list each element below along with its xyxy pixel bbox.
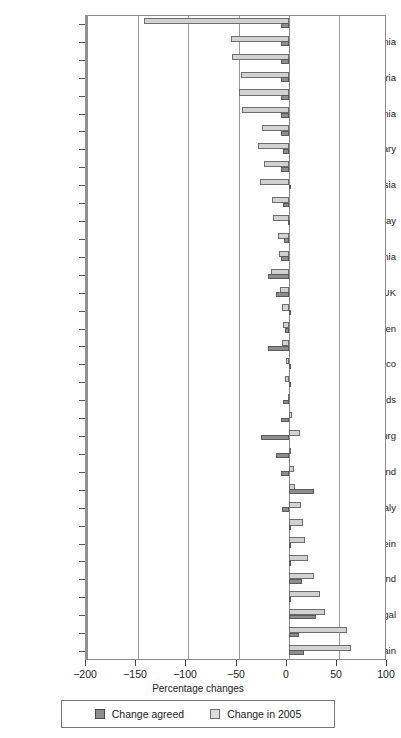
bar-agreed-france [289, 382, 291, 387]
bar-2005-liechtenstein [289, 537, 305, 543]
bar-2005-italy [289, 502, 301, 508]
legend-label-change-in-2005: Change in 2005 [227, 708, 301, 720]
bar-agreed-bulgaria [281, 77, 289, 82]
bar-2005-norway [273, 215, 289, 221]
bar-2005-latvia [144, 18, 288, 24]
x-axis-label-100: 100 [361, 668, 401, 680]
chart-legend: Change agreed Change in 2005 [61, 700, 335, 728]
legend-item-change-agreed: Change agreed [95, 708, 184, 720]
dark-square-swatch [95, 709, 105, 719]
gridline--50 [239, 16, 240, 659]
bar-agreed-luxembourg [261, 435, 289, 440]
bar-agreed-czech-republic [281, 167, 289, 172]
bar-agreed-lithuania [281, 41, 289, 46]
x-tick-100 [386, 660, 387, 666]
bar-agreed-turkey [289, 597, 291, 602]
bar-agreed-cyprus [289, 561, 291, 566]
x-axis-label-0: 0 [261, 668, 311, 680]
bar-2005-turkey [289, 591, 320, 597]
bar-agreed-germany [268, 274, 289, 279]
bar-agreed-ireland [289, 579, 302, 584]
bar-agreed-russia [289, 185, 291, 190]
bar-agreed-slovenia [281, 256, 289, 261]
bar-agreed-austria [276, 453, 289, 458]
x-tick-50 [336, 660, 337, 666]
bar-agreed-belgium [281, 418, 289, 423]
bar-agreed-greece [289, 489, 314, 494]
gridline--100 [188, 16, 189, 659]
bar-2005-cyprus [289, 555, 308, 561]
x-tick-0 [286, 660, 287, 666]
gridline--150 [138, 16, 139, 659]
bar-agreed-spain [289, 650, 304, 655]
gridline-50 [339, 16, 340, 659]
bar-agreed-norway [288, 220, 290, 225]
x-tick--200 [85, 660, 86, 666]
x-axis-label--200: −200 [60, 668, 110, 680]
legend-label-change-agreed: Change agreed [112, 708, 184, 720]
x-tick--100 [185, 660, 186, 666]
bar-2005-russia [260, 179, 289, 185]
bar-agreed-ukraine [281, 95, 289, 100]
bar-agreed-uk [276, 292, 289, 297]
light-square-swatch [210, 709, 220, 719]
bar-2005-finland [282, 304, 289, 310]
bar-agreed-liechtenstein [289, 543, 291, 548]
bar-2005-switzerland [289, 466, 294, 472]
bar-2005-belgium [289, 412, 292, 418]
bar-agreed-latvia [281, 23, 289, 28]
bar-2005-malta [289, 519, 303, 525]
bar-agreed-malta [289, 525, 291, 530]
plot-area [85, 15, 386, 660]
x-axis-title: Percentage changes [0, 683, 396, 694]
bar-agreed-hungary [283, 149, 289, 154]
bar-agreed-switzerland [281, 471, 289, 476]
bar-2005-austria [289, 448, 291, 454]
bar-agreed-estonia [281, 59, 289, 64]
bar-agreed-portugal [289, 615, 316, 620]
bar-2005-luxembourg [289, 430, 300, 436]
bar-agreed-romania [281, 113, 289, 118]
x-tick--50 [236, 660, 237, 666]
bar-agreed-netherlands [283, 400, 289, 405]
legend-item-change-in-2005: Change in 2005 [210, 708, 301, 720]
bar-agreed-monaco [289, 364, 291, 369]
bar-agreed-croatia [284, 238, 289, 243]
x-tick--150 [135, 660, 136, 666]
bar-agreed-finland [289, 310, 291, 315]
x-axis-label--100: −100 [160, 668, 210, 680]
x-axis-label-50: 50 [311, 668, 361, 680]
bar-agreed-denmark [268, 346, 289, 351]
x-axis-label--50: −50 [211, 668, 261, 680]
bar-agreed-sweden [285, 328, 289, 333]
bar-agreed-iceland [289, 633, 299, 638]
bar-agreed-poland [283, 203, 289, 208]
x-axis-label--150: −150 [110, 668, 160, 680]
bar-agreed-italy [282, 507, 289, 512]
bar-agreed-slovakia [281, 131, 289, 136]
